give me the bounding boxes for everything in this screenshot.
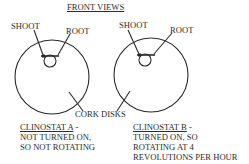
clinostat-a-drawing	[15, 30, 89, 114]
shoot-label-b: SHOOT	[119, 20, 148, 30]
clinostat-b-heading-line: CLINOSTAT B -	[133, 122, 238, 132]
shoot-leader-b	[128, 30, 139, 54]
clinostat-b-drawing	[114, 30, 188, 112]
clinostat-b-caption: CLINOSTAT B - TURNED ON, SO ROTATING AT …	[133, 122, 238, 162]
clinostat-b-line-2: ROTATING AT 4	[133, 142, 238, 152]
cork-disk-a	[15, 40, 89, 114]
root-label-a: ROOT	[66, 26, 89, 36]
diagram-title: FRONT VIEWS	[67, 2, 124, 12]
clinostat-a-line-2: SO NOT ROTATING	[20, 142, 95, 152]
clinostat-b-line-1: TURNED ON, SO	[133, 132, 238, 142]
cork-disks-label: CORK DISKS	[75, 109, 126, 119]
clinostat-a-heading-line: CLINOSTAT A -	[20, 122, 95, 132]
clinostat-a-line-1: NOT TURNED ON,	[20, 132, 95, 142]
root-label-b: ROOT	[170, 25, 193, 35]
clinostat-b-heading: CLINOSTAT B	[133, 122, 187, 132]
cork-disk-b	[114, 38, 188, 112]
clinostat-a-heading: CLINOSTAT A	[20, 122, 73, 132]
clinostat-a-caption: CLINOSTAT A - NOT TURNED ON, SO NOT ROTA…	[20, 122, 95, 152]
clinostat-b-line-3: REVOLUTIONS PER HOUR	[133, 152, 238, 162]
root-leader-b	[154, 33, 172, 54]
root-leader-a	[58, 34, 70, 55]
shoot-label-a: SHOOT	[11, 21, 40, 31]
shoot-leader-a	[34, 30, 43, 55]
